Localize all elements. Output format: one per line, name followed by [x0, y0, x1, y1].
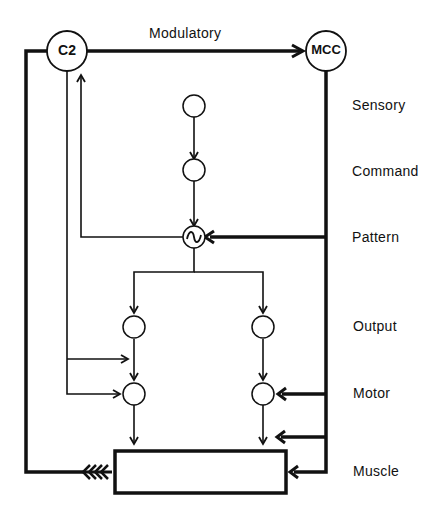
level-label-motor: Motor — [353, 385, 390, 401]
command-neuron — [183, 159, 205, 181]
output-neuron-right — [252, 316, 274, 338]
output-neuron-left — [123, 316, 145, 338]
modulatory-edge — [87, 45, 303, 57]
level-label-sensory: Sensory — [352, 97, 405, 113]
circuit-diagram — [0, 0, 448, 519]
pattern-to-output-edges — [134, 248, 263, 313]
motor-neuron-right — [252, 383, 274, 405]
mcc-label: MCC — [306, 42, 346, 57]
pattern-to-c2-edge — [81, 75, 186, 237]
muscle-feedback-edge — [26, 51, 112, 479]
mcc-trunk-edges — [205, 71, 326, 478]
level-label-output: Output — [353, 318, 397, 334]
c2-label: C2 — [47, 42, 87, 58]
motor-neuron-left — [123, 383, 145, 405]
c2-to-motor-edges — [67, 71, 128, 394]
sensory-neuron — [183, 95, 205, 117]
level-label-command: Command — [352, 163, 419, 179]
level-label-muscle: Muscle — [353, 463, 399, 479]
muscle-box — [115, 451, 286, 493]
level-label-pattern: Pattern — [352, 229, 399, 245]
modulatory-label: Modulatory — [149, 25, 221, 41]
